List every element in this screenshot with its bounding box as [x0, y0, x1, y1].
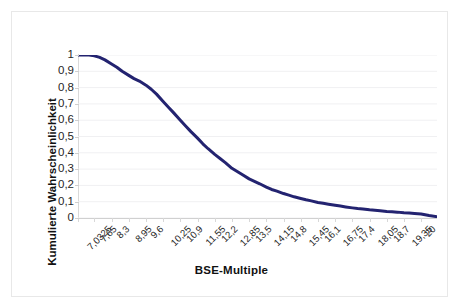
x-tick-mark [112, 218, 113, 222]
x-tick-mark [284, 218, 285, 222]
y-axis-tick-labels: 10,90,80,70,60,50,40,30,20,10 [38, 0, 74, 308]
x-tick-mark [198, 218, 199, 222]
x-tick-mark [232, 218, 233, 222]
y-tick-mark [75, 55, 79, 56]
x-tick-mark [370, 218, 371, 222]
y-tick-label: 0,4 [40, 147, 74, 158]
x-tick-mark [387, 218, 388, 222]
x-tick-mark [352, 218, 353, 222]
x-tick-mark [215, 218, 216, 222]
x-axis-tick-labels: 7,03257,658,38,959,610,2510,911,5512,212… [78, 218, 437, 288]
x-tick-mark [180, 218, 181, 222]
x-tick-mark [146, 218, 147, 222]
x-tick-mark [318, 218, 319, 222]
x-tick-mark [129, 218, 130, 222]
data-series-line [78, 55, 437, 217]
y-tick-mark [75, 169, 79, 170]
y-tick-mark [75, 185, 79, 186]
y-tick-label: 0,5 [40, 131, 74, 142]
y-tick-label: 0,6 [40, 114, 74, 125]
x-tick-mark [404, 218, 405, 222]
x-tick-mark [301, 218, 302, 222]
y-tick-mark [75, 218, 79, 219]
y-tick-mark [75, 71, 79, 72]
y-tick-label: 1 [40, 49, 74, 60]
y-tick-label: 0,2 [40, 179, 74, 190]
x-tick-mark [421, 218, 422, 222]
x-tick-mark [163, 218, 164, 222]
y-tick-mark [75, 104, 79, 105]
y-tick-label: 0,3 [40, 163, 74, 174]
x-tick-label: 8,3 [114, 224, 131, 241]
plot-svg [78, 55, 437, 218]
chart-container: Kumulierte Wahrscheinlichkeit 10,90,80,7… [0, 0, 463, 308]
y-tick-label: 0,1 [40, 196, 74, 207]
y-tick-mark [75, 202, 79, 203]
gridlines [78, 55, 437, 218]
x-axis-title: BSE-Multiple [0, 264, 463, 276]
y-tick-label: 0,8 [40, 82, 74, 93]
y-tick-mark [75, 153, 79, 154]
x-tick-label: 9,6 [149, 224, 166, 241]
x-tick-mark [249, 218, 250, 222]
y-tick-label: 0 [40, 212, 74, 223]
x-tick-mark [94, 218, 95, 222]
y-tick-mark [75, 88, 79, 89]
x-tick-mark [335, 218, 336, 222]
y-tick-mark [75, 120, 79, 121]
y-tick-mark [75, 137, 79, 138]
y-tick-label: 0,9 [40, 65, 74, 76]
y-tick-label: 0,7 [40, 98, 74, 109]
plot-area [78, 55, 437, 218]
x-tick-mark [266, 218, 267, 222]
